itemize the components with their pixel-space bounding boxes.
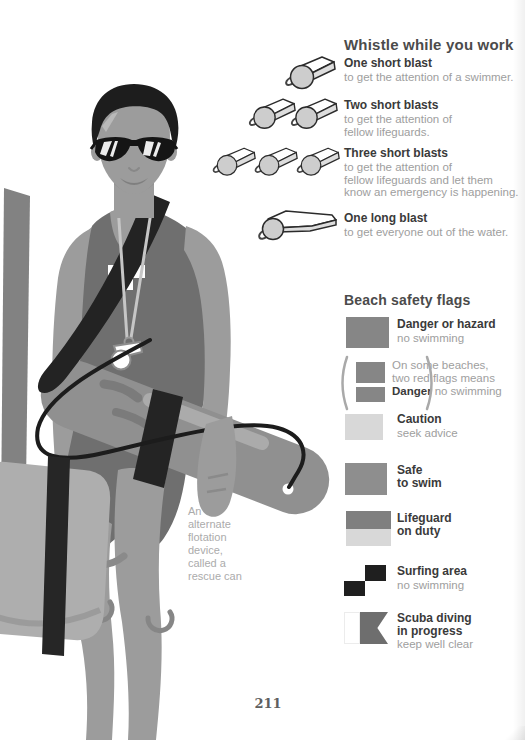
whistle-icon bbox=[252, 143, 298, 179]
scuba-flag-blue-half bbox=[360, 612, 388, 644]
double-red-note: On some beaches, two red flags means bbox=[392, 359, 495, 385]
lifeguard-head bbox=[91, 84, 178, 194]
lifeguard-flag-title: Lifeguard on duty bbox=[397, 512, 452, 538]
side-bag bbox=[0, 456, 110, 656]
whistle-entry-title: Two short blasts bbox=[344, 99, 438, 112]
double-red-flag-bottom bbox=[356, 387, 385, 402]
checker-tr bbox=[365, 565, 386, 581]
checker-br bbox=[365, 581, 386, 597]
danger-flag-swatch bbox=[346, 317, 389, 348]
scuba-flag-swatch bbox=[344, 612, 388, 644]
double-red-note-bold-line: Dangerno swimming bbox=[392, 385, 502, 398]
rescue-can-caption: An alternate flotation device, called a … bbox=[188, 505, 283, 583]
lifeguard-flag-top bbox=[346, 511, 391, 529]
whistle-entry-title: One long blast bbox=[344, 212, 427, 225]
lifeguard-flag-swatch bbox=[346, 511, 391, 546]
whistle-icon bbox=[282, 52, 336, 92]
scuba-flag-white-half bbox=[344, 612, 360, 644]
whistle-entry-desc: to get the attention of a swimmer. bbox=[344, 71, 513, 84]
whistle-entry-desc: to get everyone out of the water. bbox=[344, 226, 508, 239]
surfing-flag-note: no swimming bbox=[397, 579, 464, 592]
scuba-flag-note: keep well clear bbox=[397, 638, 473, 651]
long-whistle-icon bbox=[256, 206, 340, 244]
caution-flag-note: seek advice bbox=[397, 427, 458, 440]
page-corner-curl bbox=[503, 726, 525, 740]
whistle-icon bbox=[288, 94, 338, 132]
close-paren bbox=[424, 355, 438, 411]
danger-flag-title: Danger or hazard bbox=[397, 318, 496, 331]
caution-flag-swatch bbox=[345, 414, 383, 440]
page-edge-shading bbox=[513, 0, 525, 740]
whistle-entry-desc: to get the attention of fellow lifeguard… bbox=[344, 113, 452, 138]
safe-flag-swatch bbox=[345, 463, 387, 495]
whistle-section-title: Whistle while you work bbox=[344, 36, 513, 53]
danger-flag-note: no swimming bbox=[397, 332, 464, 345]
lifeguard-flag-bottom bbox=[346, 529, 391, 547]
open-paren bbox=[336, 355, 350, 411]
book-page: An alternate flotation device, called a … bbox=[0, 0, 525, 740]
caution-flag-title: Caution bbox=[397, 413, 442, 426]
scuba-flag-title: Scuba diving in progress bbox=[397, 612, 472, 638]
double-red-flag-top bbox=[356, 362, 385, 383]
whistle-icon bbox=[210, 143, 256, 179]
safe-flag-title: Safe to swim bbox=[397, 464, 442, 490]
flags-section-title: Beach safety flags bbox=[344, 292, 471, 308]
whistle-entry-desc: to get the attention of fellow lifeguard… bbox=[344, 161, 519, 199]
checker-bl bbox=[344, 581, 365, 597]
whistle-entry-title: Three short blasts bbox=[344, 147, 448, 160]
danger-rest: no swimming bbox=[435, 385, 502, 397]
whistle-icon bbox=[294, 143, 340, 179]
whistle-entry-title: One short blast bbox=[344, 57, 432, 70]
checker-tl bbox=[344, 565, 365, 581]
page-number: 211 bbox=[244, 696, 292, 711]
surfing-flag-swatch bbox=[344, 565, 386, 596]
surfing-flag-title: Surfing area bbox=[397, 565, 467, 578]
